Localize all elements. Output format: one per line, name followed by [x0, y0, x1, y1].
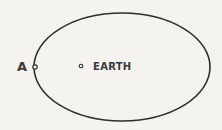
point-a-marker: [33, 65, 37, 69]
earth-marker: [79, 64, 83, 68]
earth-label: EARTH: [93, 61, 132, 72]
point-a-label: A: [17, 59, 27, 74]
